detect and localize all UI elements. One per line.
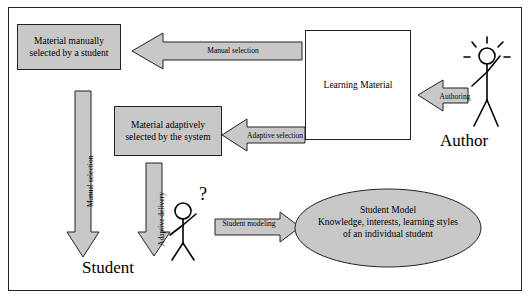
student-model-text: Student Model Knowledge, interests, lear… [308,204,468,240]
student-model-line2: of an individual student [308,228,468,240]
student-figure-icon [170,203,196,260]
question-mark-icon: ? [199,184,207,204]
student-model-line1: Knowledge, interests, learning styles [308,216,468,228]
box-learning-material[interactable]: Learning Material [305,30,411,140]
label-authoring: Authoring [432,92,478,101]
diagram-canvas: ? Material manually selected by a studen… [0,0,531,299]
label-adaptive-delivery: Adaptive delivery [157,192,166,246]
box-material-manually-selected[interactable]: Material manually selected by a student [17,24,121,70]
actor-label-student: Student [82,258,134,278]
student-model-title: Student Model [308,204,468,216]
label-adaptive-selection: Adaptive selection [243,131,307,140]
box-learning-material-label: Learning Material [324,79,393,91]
label-student-modeling: Student modeling [222,219,276,228]
label-manual-selection-top: Manual selection [190,46,276,55]
actor-label-author: Author [440,131,488,151]
label-manual-selection-left: Manual selection [86,156,95,207]
box-material-manually-selected-label: Material manually selected by a student [20,35,118,59]
box-material-adaptively-selected[interactable]: Material adaptively selected by the syst… [114,106,222,156]
author-figure-icon [464,37,510,126]
label-student-modeling-text: Student modeling [222,219,275,228]
box-material-adaptively-selected-label: Material adaptively selected by the syst… [117,119,219,143]
